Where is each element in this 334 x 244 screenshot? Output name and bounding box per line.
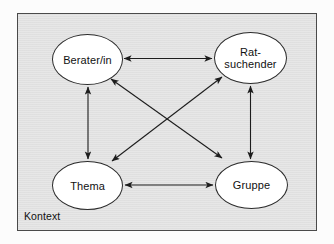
figure-canvas: Berater/in Rat- suchender Thema Gruppe K…: [0, 0, 334, 244]
kontext-frame-label: Kontext: [24, 210, 60, 222]
node-gruppe[interactable]: Gruppe: [215, 161, 288, 209]
node-gruppe-label: Gruppe: [233, 179, 270, 191]
node-ratsuchender-label: Rat- suchender: [224, 46, 276, 70]
node-berater[interactable]: Berater/in: [52, 34, 123, 85]
node-ratsuchender[interactable]: Rat- suchender: [214, 32, 287, 84]
node-thema[interactable]: Thema: [52, 161, 123, 210]
node-berater-label: Berater/in: [63, 54, 112, 66]
node-thema-label: Thema: [70, 180, 105, 192]
